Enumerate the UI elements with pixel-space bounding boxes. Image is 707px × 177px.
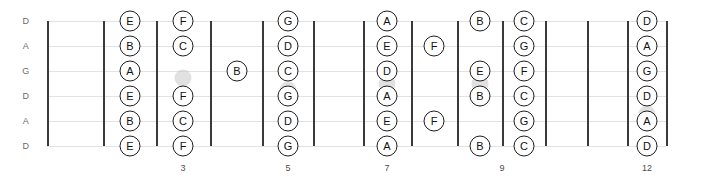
note-label: F (180, 141, 187, 152)
note-label: C (179, 41, 187, 52)
inlay-dot-0 (175, 70, 192, 87)
note-label: A (643, 41, 650, 52)
note-marker-s1-f2[interactable]: B (120, 36, 141, 57)
note-label: C (179, 116, 187, 127)
fret-line-7 (411, 21, 413, 146)
note-marker-s5-f12[interactable]: D (637, 136, 658, 157)
note-marker-s2-f5[interactable]: C (278, 61, 299, 82)
fret-line-9 (502, 21, 504, 146)
note-marker-s5-f9[interactable]: B (470, 136, 491, 157)
fret-line-8 (457, 21, 459, 146)
note-label: E (476, 66, 483, 77)
fretboard-diagram: DAGDAD EBAEBEFCFCFBGDCGDGAEDAEAFFBEBBCGF… (0, 0, 707, 177)
note-marker-s4-f10[interactable]: G (514, 111, 535, 132)
note-label: F (431, 41, 438, 52)
note-marker-s3-f12[interactable]: D (637, 86, 658, 107)
note-label: G (643, 66, 652, 77)
note-label: G (284, 16, 293, 27)
note-marker-s3-f9[interactable]: B (470, 86, 491, 107)
note-label: B (233, 66, 240, 77)
note-label: E (126, 141, 133, 152)
note-label: E (383, 116, 390, 127)
note-marker-s3-f5[interactable]: G (278, 86, 299, 107)
note-marker-s1-f12[interactable]: A (637, 36, 658, 57)
note-marker-s4-f5[interactable]: D (278, 111, 299, 132)
note-label: E (383, 41, 390, 52)
note-marker-s1-f7[interactable]: E (377, 36, 398, 57)
note-label: G (520, 41, 529, 52)
note-marker-s5-f10[interactable]: C (514, 136, 535, 157)
note-label: B (126, 41, 133, 52)
fret-line-11 (587, 21, 589, 146)
fret-line-6 (363, 21, 365, 146)
note-label: D (643, 16, 651, 27)
note-label: F (180, 91, 187, 102)
nut-line (47, 21, 49, 146)
note-label: F (180, 16, 187, 27)
note-marker-s5-f2[interactable]: E (120, 136, 141, 157)
fret-number-5: 5 (276, 163, 300, 173)
note-marker-s2-f7[interactable]: D (377, 61, 398, 82)
string-label-3: D (18, 91, 34, 101)
note-label: A (643, 116, 650, 127)
fret-line-5 (313, 21, 315, 146)
note-marker-s2-f9[interactable]: E (470, 61, 491, 82)
note-label: F (521, 66, 528, 77)
note-marker-s4-f3[interactable]: C (173, 111, 194, 132)
note-marker-s4-f12[interactable]: A (637, 111, 658, 132)
note-marker-s0-f12[interactable]: D (637, 11, 658, 32)
note-label: E (126, 91, 133, 102)
note-marker-s0-f2[interactable]: E (120, 11, 141, 32)
fret-number-9: 9 (490, 163, 514, 173)
fret-line-12 (627, 21, 629, 146)
note-marker-s3-f2[interactable]: E (120, 86, 141, 107)
note-label: C (284, 66, 292, 77)
fret-number-3: 3 (171, 163, 195, 173)
note-marker-s5-f7[interactable]: A (377, 136, 398, 157)
note-marker-s4-f8[interactable]: F (424, 111, 445, 132)
fret-line-1 (103, 21, 105, 146)
note-marker-s5-f3[interactable]: F (173, 136, 194, 157)
note-marker-s2-f4[interactable]: B (227, 61, 248, 82)
note-label: G (284, 141, 293, 152)
note-label: B (476, 91, 483, 102)
note-label: D (284, 116, 292, 127)
note-marker-s5-f5[interactable]: G (278, 136, 299, 157)
note-marker-s0-f9[interactable]: B (470, 11, 491, 32)
string-label-1: A (18, 41, 34, 51)
note-marker-s1-f10[interactable]: G (514, 36, 535, 57)
note-marker-s0-f7[interactable]: A (377, 11, 398, 32)
note-marker-s1-f3[interactable]: C (173, 36, 194, 57)
note-label: C (520, 16, 528, 27)
note-marker-s2-f12[interactable]: G (637, 61, 658, 82)
fret-number-7: 7 (375, 163, 399, 173)
note-marker-s0-f10[interactable]: C (514, 11, 535, 32)
string-label-2: G (18, 66, 34, 76)
note-label: C (520, 91, 528, 102)
note-marker-s3-f10[interactable]: C (514, 86, 535, 107)
note-label: D (643, 141, 651, 152)
fret-line-3 (210, 21, 212, 146)
note-marker-s0-f3[interactable]: F (173, 11, 194, 32)
string-label-4: A (18, 116, 34, 126)
note-label: A (383, 16, 390, 27)
note-label: D (284, 41, 292, 52)
note-marker-s4-f2[interactable]: B (120, 111, 141, 132)
note-marker-s3-f7[interactable]: A (377, 86, 398, 107)
fret-line-13 (666, 21, 668, 146)
note-marker-s1-f5[interactable]: D (278, 36, 299, 57)
note-label: A (126, 66, 133, 77)
note-marker-s0-f5[interactable]: G (278, 11, 299, 32)
note-marker-s3-f3[interactable]: F (173, 86, 194, 107)
note-label: D (383, 66, 391, 77)
string-label-0: D (18, 16, 34, 26)
note-label: B (126, 116, 133, 127)
note-marker-s1-f8[interactable]: F (424, 36, 445, 57)
note-marker-s2-f2[interactable]: A (120, 61, 141, 82)
note-marker-s2-f10[interactable]: F (514, 61, 535, 82)
note-label: G (520, 116, 529, 127)
note-label: F (431, 116, 438, 127)
note-marker-s4-f7[interactable]: E (377, 111, 398, 132)
string-label-5: D (18, 141, 34, 151)
fret-line-4 (262, 21, 264, 146)
